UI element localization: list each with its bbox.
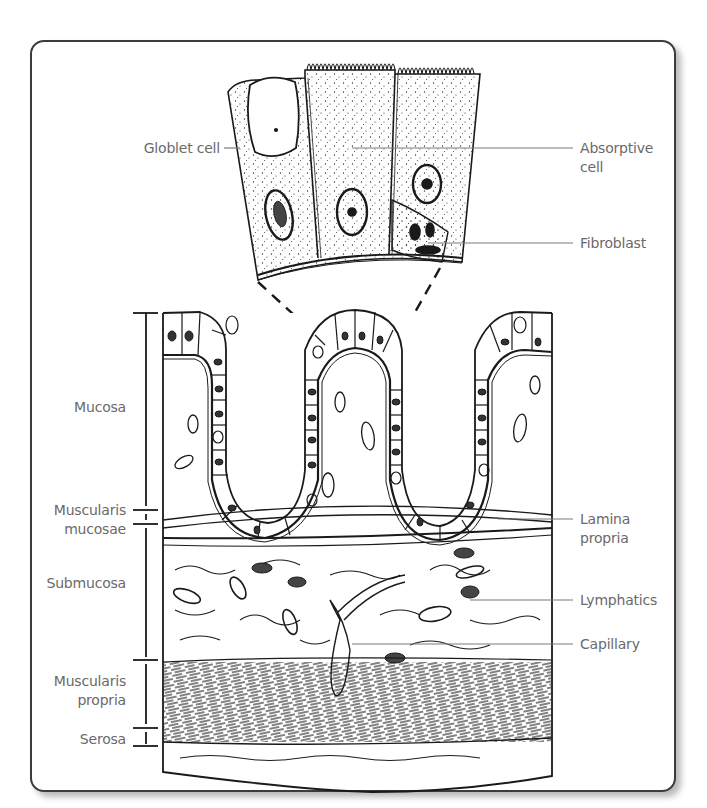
layer-brackets xyxy=(133,313,158,746)
label-goblet-cell: Globlet cell xyxy=(100,139,220,158)
label-mucosa: Mucosa xyxy=(30,398,126,417)
epithelial-cell-detail xyxy=(228,64,480,280)
label-muscularis-propria: Muscularis propria xyxy=(30,672,126,710)
label-capillary: Capillary xyxy=(580,635,640,654)
label-fibroblast: Fibroblast xyxy=(580,234,646,253)
label-muscularis-mucosae: Muscularis mucosae xyxy=(30,501,126,539)
label-submucosa: Submucosa xyxy=(30,574,126,593)
label-lamina-propria: Lamina propria xyxy=(580,510,630,548)
label-absorptive-cell: Absorptive cell xyxy=(580,139,653,177)
label-lymphatics: Lymphatics xyxy=(580,591,657,610)
label-serosa: Serosa xyxy=(30,730,126,749)
intestinal-cross-section xyxy=(163,310,552,792)
